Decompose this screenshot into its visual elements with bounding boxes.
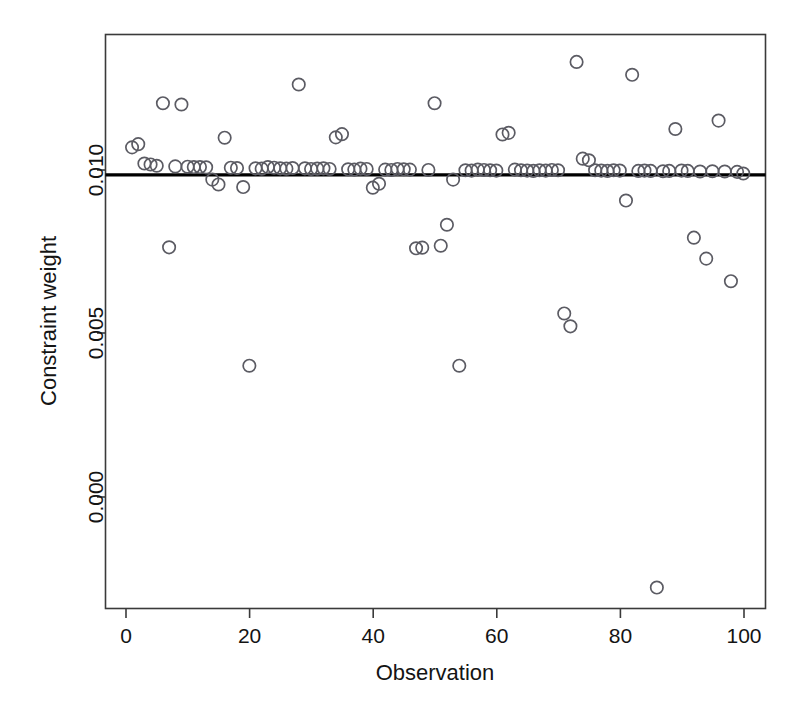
x-axis-tick-labels: 0 20 40 60 80 100 xyxy=(120,624,761,647)
x-tick-label-20: 20 xyxy=(238,624,261,647)
data-point xyxy=(626,69,638,81)
x-axis-ticks xyxy=(126,609,744,619)
x-tick-label-0: 0 xyxy=(120,624,132,647)
x-tick-label-100: 100 xyxy=(726,624,761,647)
y-tick-label-0: 0.000 xyxy=(84,471,107,524)
data-point xyxy=(435,240,447,252)
data-point xyxy=(669,123,681,135)
y-axis-tick-labels: 0.000 0.005 0.010 xyxy=(84,144,107,524)
y-tick-label-2: 0.010 xyxy=(84,144,107,197)
data-point xyxy=(700,252,712,264)
x-tick-label-80: 80 xyxy=(609,624,632,647)
data-point xyxy=(564,320,576,332)
data-point xyxy=(558,307,570,319)
data-point xyxy=(725,275,737,287)
scatter-points-layer xyxy=(126,56,750,594)
data-point xyxy=(237,181,249,193)
x-tick-label-60: 60 xyxy=(485,624,508,647)
data-point xyxy=(293,78,305,90)
x-tick-label-40: 40 xyxy=(362,624,385,647)
data-point xyxy=(620,194,632,206)
data-point xyxy=(243,359,255,371)
x-axis-label: Observation xyxy=(376,660,495,685)
data-point xyxy=(218,131,230,143)
data-point xyxy=(688,231,700,243)
data-point xyxy=(712,114,724,126)
data-point xyxy=(169,160,181,172)
data-point xyxy=(651,581,663,593)
data-point xyxy=(453,359,465,371)
scatter-plot-figure: 0.000 0.005 0.010 Constraint weight 0 20… xyxy=(0,0,797,704)
data-point xyxy=(428,97,440,109)
plot-frame xyxy=(106,35,766,609)
plot-canvas: 0.000 0.005 0.010 Constraint weight 0 20… xyxy=(0,0,797,704)
data-point xyxy=(175,98,187,110)
y-tick-label-1: 0.005 xyxy=(84,307,107,360)
data-point xyxy=(157,97,169,109)
data-point xyxy=(441,219,453,231)
data-point xyxy=(163,241,175,253)
data-point xyxy=(570,56,582,68)
y-axis-label: Constraint weight xyxy=(36,236,61,406)
